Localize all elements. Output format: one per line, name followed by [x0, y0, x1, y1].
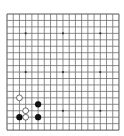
black-stone[interactable]: [35, 101, 41, 107]
black-stone[interactable]: [17, 114, 23, 120]
white-stone[interactable]: [23, 108, 29, 114]
star-point: [62, 71, 64, 73]
white-stone[interactable]: [17, 95, 23, 101]
star-point: [25, 32, 27, 34]
star-point: [62, 32, 64, 34]
star-point: [99, 32, 101, 34]
go-board[interactable]: [0, 0, 124, 136]
star-point: [99, 71, 101, 73]
star-point: [25, 71, 27, 73]
black-stone[interactable]: [35, 114, 41, 120]
star-point: [62, 110, 64, 112]
stones-layer: [17, 95, 41, 120]
white-stone[interactable]: [23, 114, 29, 120]
star-point: [99, 110, 101, 112]
